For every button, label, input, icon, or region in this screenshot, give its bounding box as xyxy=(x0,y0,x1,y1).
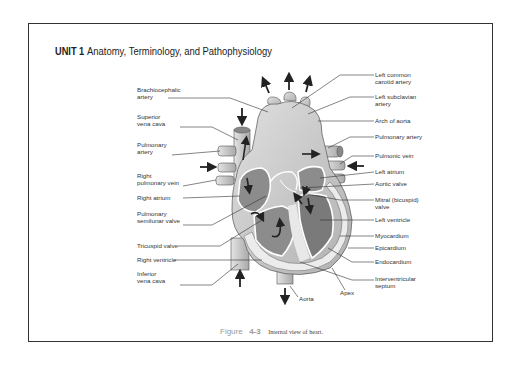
label-left-atrium: Left atrium xyxy=(375,168,404,175)
label-aorta: Aorta xyxy=(299,295,314,302)
label-myocardium: Myocardium xyxy=(375,232,409,239)
left-pulmonary-artery-stub xyxy=(218,146,236,156)
label-pulmonary-artery-right: Pulmonary artery xyxy=(375,133,422,140)
label-mitral-valve: Mitral (bicuspid)valve xyxy=(375,196,419,211)
label-inferior-vena-cava: Inferiorvena cava xyxy=(137,270,165,285)
right-pulmonary-vein-stub-1 xyxy=(218,163,236,172)
label-apex: Apex xyxy=(340,289,354,296)
label-superior-vena-cava: Superiorvena cava xyxy=(137,113,165,128)
label-epicardium: Epicardium xyxy=(375,244,406,251)
figure-number: 4-3 xyxy=(249,327,261,336)
figure-label: Figure xyxy=(220,327,243,336)
label-aortic-valve: Aortic valve xyxy=(375,180,407,187)
heart-diagram xyxy=(0,0,516,367)
label-left-ventricle: Left ventricle xyxy=(375,216,410,223)
label-right-pulmonary-vein: Rightpulmonary vein xyxy=(137,172,179,187)
label-arch-of-aorta: Arch of aorta xyxy=(375,117,410,124)
label-right-atrium: Right atrium xyxy=(137,194,170,201)
figure-caption: Figure 4-3 Internal view of heart. xyxy=(220,320,323,338)
label-pulmonary-artery-left: Pulmonaryartery xyxy=(137,141,167,156)
label-interventricular-septum: Interventricularseptum xyxy=(375,275,416,290)
label-left-common-carotid-artery: Left commoncarotid artery xyxy=(375,71,411,86)
label-brachiocephalic-artery: Brachiocephalicartery xyxy=(137,86,181,101)
label-right-ventricle: Right ventricle xyxy=(137,256,176,263)
left-atrium-chamber xyxy=(298,167,325,192)
label-left-subclavian-artery: Left subclavianartery xyxy=(375,93,416,108)
label-tricuspid-valve: Tricuspid valve xyxy=(137,242,178,249)
figure-caption-text: Internal view of heart. xyxy=(268,328,323,335)
right-pulmonary-vein-stub-2 xyxy=(216,176,234,185)
label-pulmonary-semilunar-valve: Pulmonarysemilunar valve xyxy=(137,210,180,225)
label-endocardium: Endocardium xyxy=(375,258,411,265)
label-pulmonic-vein: Pulmonic vein xyxy=(375,152,414,159)
